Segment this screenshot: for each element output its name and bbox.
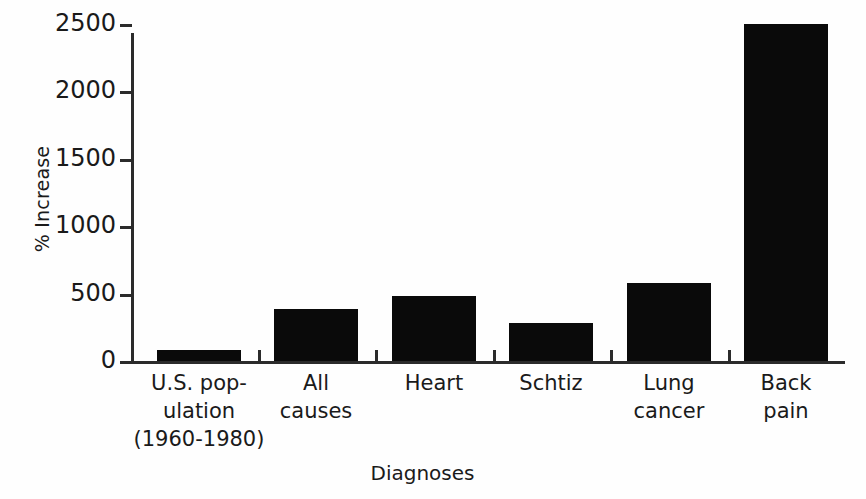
x-category-line: All — [256, 369, 376, 397]
x-category-label-lung-cancer: Lung cancer — [609, 369, 729, 425]
x-category-label-all-causes: All causes — [256, 369, 376, 425]
x-category-line: causes — [256, 397, 376, 425]
y-tick-mark-2500 — [120, 24, 132, 27]
bar-all-causes — [274, 309, 358, 361]
x-category-line: Lung — [609, 369, 729, 397]
y-axis-spine — [131, 33, 134, 364]
y-tick-label-0: 0 — [30, 348, 116, 372]
x-category-label-schtiz: Schtiz — [491, 369, 611, 397]
y-axis-tick-labels: 2500 2000 1500 1000 500 0 — [30, 0, 116, 499]
y-tick-label-2500: 2500 — [30, 11, 116, 35]
bar-heart — [392, 296, 476, 361]
x-tick-mark-4 — [728, 350, 731, 361]
bar-us-population — [157, 350, 241, 361]
y-tick-label-500: 500 — [30, 281, 116, 305]
bar-chart-figure: % Increase 2500 2000 1500 1000 500 0 — [0, 0, 866, 499]
y-tick-mark-1500 — [120, 159, 132, 162]
x-tick-mark-2 — [375, 350, 378, 361]
x-category-label-us-population: U.S. pop- ulation (1960-1980) — [131, 369, 267, 453]
x-category-line: Back — [726, 369, 846, 397]
x-category-line: Schtiz — [491, 369, 611, 397]
x-axis-spine — [131, 361, 845, 364]
y-tick-label-1500: 1500 — [30, 146, 116, 170]
x-axis-category-labels: U.S. pop- ulation (1960-1980) All causes… — [131, 369, 845, 459]
x-category-line: cancer — [609, 397, 729, 425]
x-category-line: U.S. pop- — [131, 369, 267, 397]
x-category-line: Heart — [374, 369, 494, 397]
y-tick-label-2000: 2000 — [30, 78, 116, 102]
y-tick-mark-1000 — [120, 226, 132, 229]
y-tick-label-1000: 1000 — [30, 213, 116, 237]
y-tick-mark-2000 — [120, 91, 132, 94]
x-tick-mark-1 — [258, 350, 261, 361]
plot-area — [131, 24, 845, 364]
x-category-label-heart: Heart — [374, 369, 494, 397]
y-tick-mark-500 — [120, 294, 132, 297]
bar-schtiz — [509, 323, 593, 361]
x-category-label-back-pain: Back pain — [726, 369, 846, 425]
bar-lung-cancer — [627, 283, 711, 361]
x-category-line: pain — [726, 397, 846, 425]
x-category-line: ulation — [131, 397, 267, 425]
x-category-line: (1960-1980) — [131, 425, 267, 453]
x-tick-mark-3 — [610, 350, 613, 361]
x-tick-mark-2b — [493, 350, 496, 361]
x-axis-title: Diagnoses — [0, 461, 845, 485]
bar-back-pain — [744, 24, 828, 361]
y-tick-mark-0 — [120, 361, 132, 364]
